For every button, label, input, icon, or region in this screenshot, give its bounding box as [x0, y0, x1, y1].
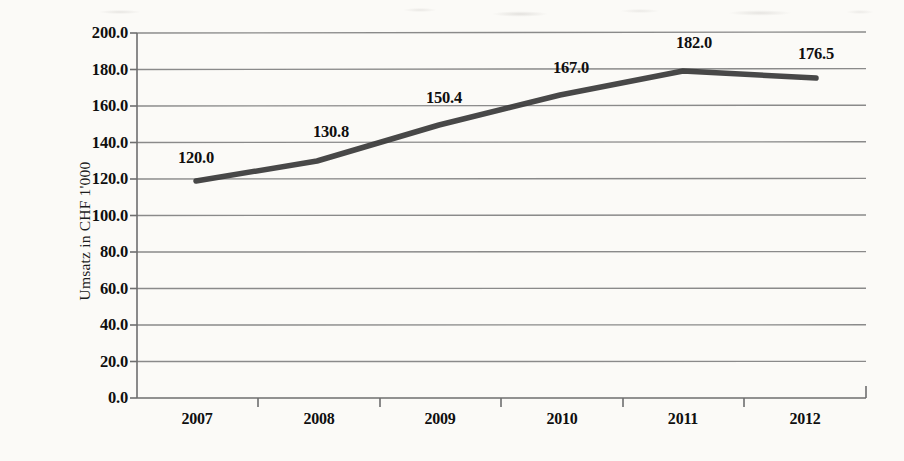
data-label: 120.0 [178, 148, 214, 168]
series-umsatz [196, 71, 816, 181]
x-tick-label: 2012 [789, 410, 820, 428]
plot-area [0, 0, 904, 461]
y-axis-ticks [130, 33, 137, 398]
x-tick-label: 2008 [303, 410, 334, 428]
y-gridlines [137, 32, 866, 362]
data-label: 182.0 [676, 33, 712, 53]
line-chart: Umsatz in CHF 1'000 200.0 180.0 160.0 14… [0, 0, 904, 461]
x-tick-label: 2010 [546, 410, 577, 428]
data-label: 150.4 [426, 88, 462, 108]
data-label: 167.0 [553, 58, 589, 78]
data-label: 176.5 [798, 44, 834, 64]
x-tick-label: 2009 [424, 410, 455, 428]
x-tick-label: 2007 [181, 410, 212, 428]
x-tick-label: 2011 [668, 410, 698, 428]
x-axis-ticks [258, 398, 744, 407]
data-label: 130.8 [313, 122, 349, 142]
